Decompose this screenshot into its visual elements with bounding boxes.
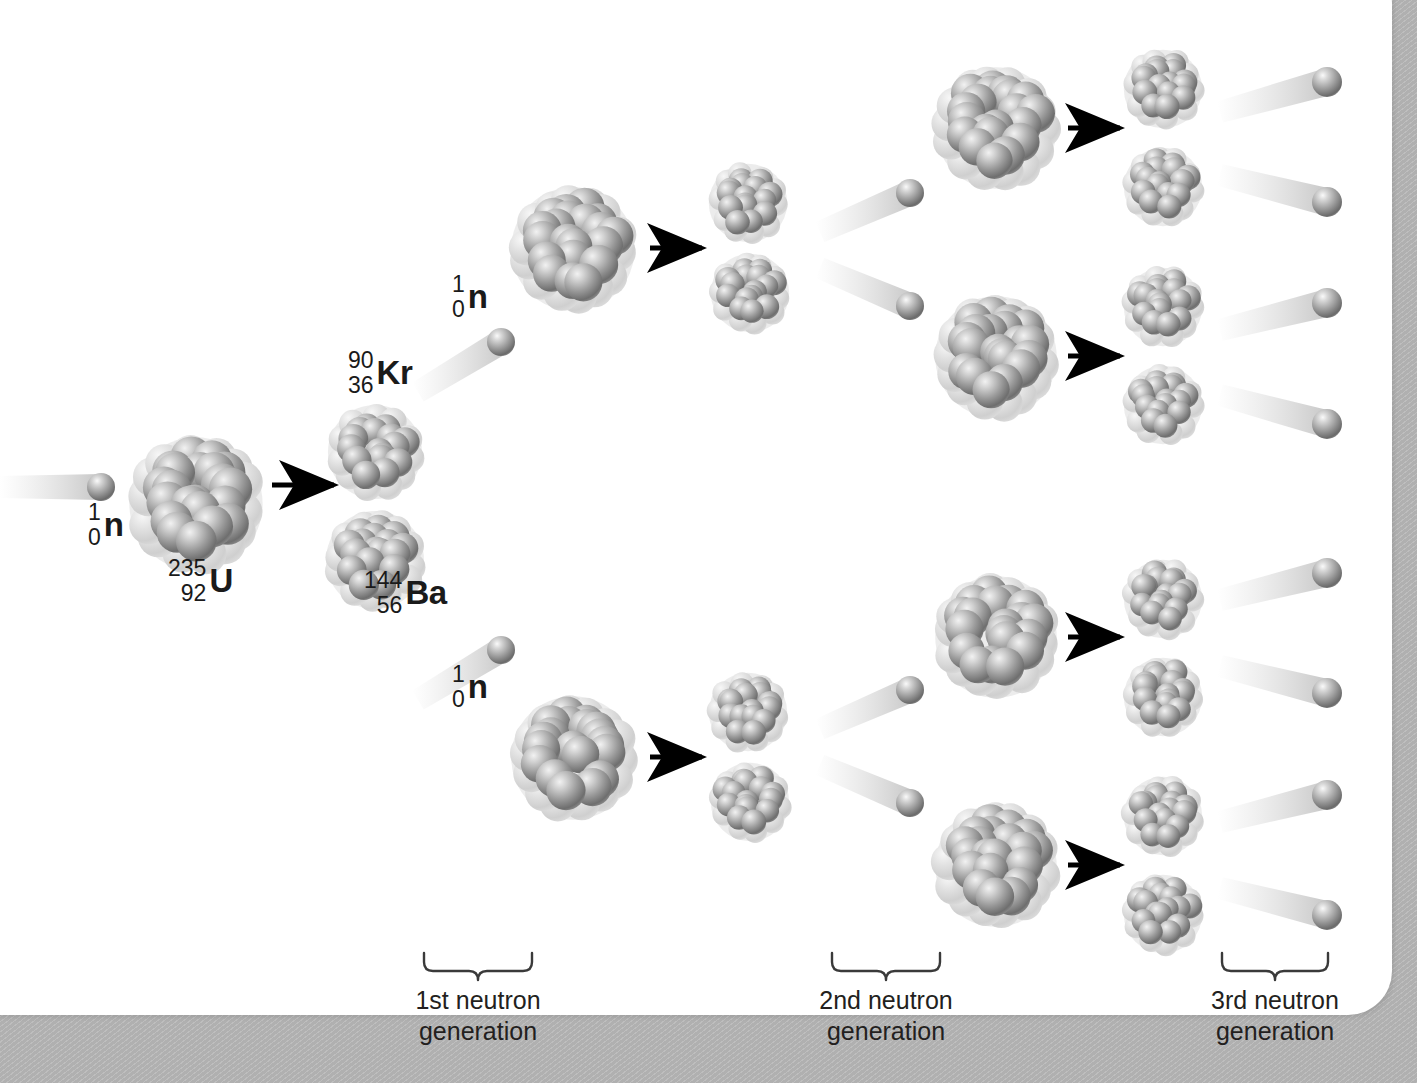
free-neutron [1312, 288, 1342, 318]
generation-brace [832, 953, 940, 980]
incident-neutron-atomic-number: 0 [88, 525, 101, 550]
free-neutron [1312, 409, 1342, 439]
generation-brace [1222, 953, 1328, 980]
nucleus [1123, 50, 1204, 130]
generation-label-gen2: 2nd neutrongeneration [771, 985, 1001, 1048]
nucleus [509, 185, 636, 314]
generation-label-line1: 3rd neutron [1211, 986, 1339, 1014]
nuclei-layer [128, 50, 1204, 957]
barium-atomic-number: 56 [364, 593, 402, 618]
free-neutron [896, 789, 924, 817]
free-neutron [1312, 678, 1342, 708]
uranium-mass-number: 235 [168, 556, 206, 581]
generation-label-line1: 2nd neutron [819, 986, 952, 1014]
nucleus [934, 295, 1059, 422]
label-krypton-90: 90 36 Kr [348, 348, 412, 398]
free-neutron [87, 473, 115, 501]
krypton-symbol: Kr [377, 356, 413, 389]
free-neutron [896, 292, 924, 320]
nucleus [709, 253, 789, 335]
neutron-gen1-top-atomic-number: 0 [452, 297, 465, 322]
nucleus [931, 802, 1060, 928]
fission-chain-diagram [0, 0, 1417, 1083]
nucleus [328, 404, 425, 501]
krypton-atomic-number: 36 [348, 373, 374, 398]
generation-label-line2: generation [771, 1016, 1001, 1047]
uranium-atomic-number: 92 [168, 581, 206, 606]
generation-label-line2: generation [1160, 1016, 1390, 1047]
neutron-gen1-bottom-mass-number: 1 [452, 662, 465, 687]
free-neutron [487, 328, 515, 356]
uranium-symbol: U [209, 564, 232, 597]
nucleus [1122, 147, 1204, 226]
figure-canvas: 1 0 n 235 92 U 90 36 Kr 144 56 Ba [0, 0, 1417, 1083]
nucleus [1121, 776, 1204, 857]
generation-label-gen3: 3rd neutrongeneration [1160, 985, 1390, 1048]
nucleus [935, 573, 1058, 699]
neutron-gen1-top-symbol: n [468, 280, 488, 313]
nucleus [1122, 560, 1204, 641]
neutron-gen1-top-mass-number: 1 [452, 272, 465, 297]
neutron-gen1-bottom-atomic-number: 0 [452, 687, 465, 712]
nucleus [1123, 658, 1203, 737]
barium-symbol: Ba [405, 576, 446, 609]
free-neutron [896, 179, 924, 207]
krypton-mass-number: 90 [348, 348, 374, 373]
nucleus [707, 672, 788, 752]
neutron-trail [0, 474, 101, 500]
generation-label-line2: generation [363, 1016, 593, 1047]
generation-brace [424, 953, 532, 980]
nucleus [709, 763, 792, 843]
reaction-arrows-layer [272, 128, 1120, 865]
nucleus [1123, 364, 1205, 445]
free-neutron [487, 636, 515, 664]
free-neutron [1312, 780, 1342, 810]
free-neutron [1312, 187, 1342, 217]
label-uranium-235: 235 92 U [168, 556, 233, 606]
generation-label-gen1: 1st neutrongeneration [363, 985, 593, 1048]
nucleus [1122, 266, 1205, 347]
free-neutron [896, 676, 924, 704]
nucleus [931, 67, 1061, 191]
nucleus [709, 162, 788, 244]
incident-neutron-mass-number: 1 [88, 500, 101, 525]
label-neutron-gen1-top: 1 0 n [452, 272, 487, 322]
free-neutron [1312, 67, 1342, 97]
nucleus [1122, 874, 1204, 956]
free-neutron [1312, 558, 1342, 588]
incident-neutron-symbol: n [104, 508, 124, 541]
barium-mass-number: 144 [364, 568, 402, 593]
neutron-gen1-bottom-symbol: n [468, 670, 488, 703]
label-barium-144: 144 56 Ba [364, 568, 447, 618]
generation-label-line1: 1st neutron [415, 986, 540, 1014]
generation-braces-layer [424, 953, 1328, 980]
label-neutron-gen1-bottom: 1 0 n [452, 662, 487, 712]
nucleus [128, 435, 262, 574]
nucleus [510, 695, 638, 821]
label-incident-neutron: 1 0 n [88, 500, 123, 550]
free-neutron [1312, 900, 1342, 930]
